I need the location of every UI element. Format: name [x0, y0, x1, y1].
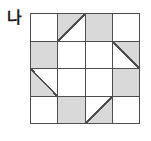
- grid-cell-r4c4: [113, 97, 139, 124]
- pattern-grid: [30, 13, 140, 124]
- grid-cell-r3c2: [58, 69, 84, 96]
- grid-cell-r3c4: [113, 69, 139, 96]
- grid-cell-r2c2: [58, 42, 84, 69]
- figure-canvas: 나: [0, 0, 151, 141]
- grid-cell-r4c2: [58, 97, 84, 124]
- grid-cell-r1c2: [58, 14, 84, 41]
- grid-cell-r1c4: [113, 14, 139, 41]
- grid-cell-r2c4: [113, 42, 139, 69]
- grid-cell-r3c3: [86, 69, 112, 96]
- grid-cell-r4c1: [31, 97, 57, 124]
- grid-cell-r1c1: [31, 14, 57, 41]
- grid-cell-r2c3: [86, 42, 112, 69]
- figure-label: 나: [7, 8, 22, 28]
- grid-cell-r2c1: [31, 42, 57, 69]
- grid-cell-r4c3: [86, 97, 112, 124]
- grid-cell-r1c3: [86, 14, 112, 41]
- grid-cell-r3c1: [31, 69, 57, 96]
